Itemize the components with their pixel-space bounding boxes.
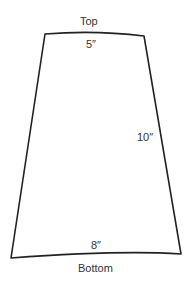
bottom-label: Bottom <box>78 262 113 274</box>
top-label: Top <box>80 15 98 27</box>
side-height-label: 10″ <box>137 131 153 143</box>
bottom-width-label: 8″ <box>91 239 101 251</box>
top-width-label: 5″ <box>86 38 96 50</box>
